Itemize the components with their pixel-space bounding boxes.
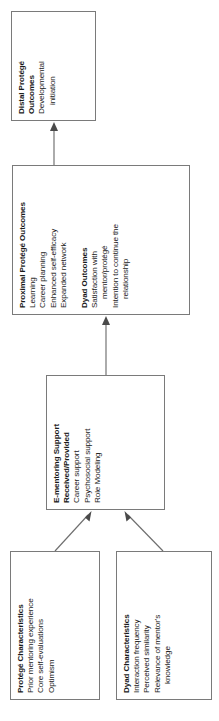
box-item: Psychosocial support bbox=[83, 382, 93, 503]
edge-dyad-characteristics-to-support bbox=[125, 511, 164, 551]
box-item: Interaction frequency bbox=[132, 558, 142, 693]
box-item: Enhanced self-efficacy bbox=[49, 172, 59, 308]
box-item: Career support bbox=[72, 382, 82, 503]
box-title: Dyad Characteristics bbox=[122, 558, 132, 693]
box-item: Learning bbox=[28, 172, 38, 308]
box-title: Proximal Protégé Outcomes bbox=[18, 172, 28, 308]
box-item: Expanded network bbox=[59, 172, 69, 308]
group-e-mentoring-support: E-mentoring Support Received/Provided Ca… bbox=[52, 382, 103, 503]
box-protege-characteristics: Protégé Characteristics Prior mentoring … bbox=[10, 551, 100, 700]
box-proximal-and-dyad-outcomes: Proximal Protégé Outcomes Learning Caree… bbox=[12, 165, 190, 315]
box-item: Intention to continue the bbox=[111, 172, 121, 308]
group-proximal-protege-outcomes: Proximal Protégé Outcomes Learning Caree… bbox=[18, 172, 69, 308]
box-item: mentor/protégé bbox=[100, 172, 110, 308]
rotated-figure-stage: Protégé Characteristics Prior mentoring … bbox=[0, 0, 219, 721]
group-distal-protege-outcomes: Distal Protégé Outcomes Developmental in… bbox=[17, 18, 58, 114]
box-item: Relevance of mentor's bbox=[153, 558, 163, 693]
box-item: Developmental bbox=[37, 18, 47, 114]
box-item: initiation bbox=[48, 18, 58, 114]
box-dyad-characteristics: Dyad Characteristics Interaction frequen… bbox=[116, 551, 212, 700]
group-dyad-characteristics: Dyad Characteristics Interaction frequen… bbox=[122, 558, 173, 693]
box-item: Role Modeling bbox=[93, 382, 103, 503]
box-title: Distal Protégé Outcomes bbox=[17, 18, 37, 114]
group-dyad-outcomes: Dyad Outcomes Satisfaction with mentor/p… bbox=[80, 172, 131, 308]
edge-support-to-proximal-outcomes bbox=[102, 316, 110, 375]
box-title: E-mentoring Support Received/Provided bbox=[52, 382, 72, 503]
group-protege-characteristics: Protégé Characteristics Prior mentoring … bbox=[16, 558, 57, 693]
box-item: Core self-evaluations bbox=[36, 558, 46, 693]
box-distal-protege-outcomes: Distal Protégé Outcomes Developmental in… bbox=[11, 11, 96, 121]
box-item: knowledge bbox=[163, 558, 173, 693]
box-title: Protégé Characteristics bbox=[16, 558, 26, 693]
edge-protege-characteristics-to-support bbox=[55, 511, 92, 551]
box-item: Optimism bbox=[47, 558, 57, 693]
box-item: Prior mentoring experience bbox=[26, 558, 36, 693]
diagram-canvas: Protégé Characteristics Prior mentoring … bbox=[0, 0, 219, 721]
box-title: Dyad Outcomes bbox=[80, 172, 90, 308]
edge-proximal-to-distal-outcomes bbox=[50, 122, 58, 165]
box-item: Satisfaction with bbox=[90, 172, 100, 308]
box-item: Career planning bbox=[38, 172, 48, 308]
box-item: Perceived similarity bbox=[142, 558, 152, 693]
box-item: relationship bbox=[121, 172, 131, 308]
box-e-mentoring-support: E-mentoring Support Received/Provided Ca… bbox=[46, 375, 165, 510]
